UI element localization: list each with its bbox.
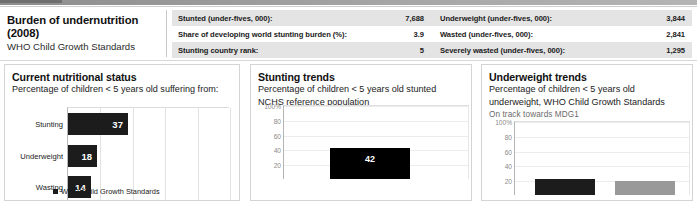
stat-label-share-burden: Share of developing world stunting burde… <box>172 30 364 39</box>
chart-legend: WHO Child Growth Standards <box>53 187 160 196</box>
chart-y-axis-tick: 40 <box>505 163 512 170</box>
underweight-trends-chart: 100%80604020 <box>488 121 693 201</box>
stat-value-wasted: 2,841 <box>640 30 692 39</box>
undernutrition-dashboard: Burden of undernutrition (2008) WHO Chil… <box>0 0 697 201</box>
legend-swatch-icon <box>53 189 58 194</box>
stat-label-underweight: Underweight (under-fives, 000): <box>432 14 640 23</box>
panels-row: Current nutritional status Percentage of… <box>0 64 697 201</box>
chart-bar-value: 18 <box>82 150 93 161</box>
chart-bar-value: 42 <box>330 154 410 164</box>
stat-label-wasted: Wasted (under-fives, 000): <box>432 30 640 39</box>
legend-label: WHO Child Growth Standards <box>61 187 160 196</box>
stat-value-severely-wasted: 1,295 <box>640 46 692 55</box>
chart-gridline <box>515 166 689 167</box>
panel-title: Underweight trends <box>489 71 692 83</box>
chart-gridline <box>515 152 689 153</box>
chart-y-axis-tick: 100% <box>264 103 281 110</box>
panel-title: Stunting trends <box>258 71 471 83</box>
chart-gridline <box>284 136 468 137</box>
stat-value-stunted: 7,688 <box>364 14 432 23</box>
chart-y-axis-tick: 20 <box>274 162 281 169</box>
chart-bar-row: 37Stunting <box>68 113 230 135</box>
panel-stunting-trends: Stunting trends Percentage of children <… <box>250 64 472 201</box>
panel-subtitle-line1: Percentage of children < 5 years old stu… <box>258 84 471 96</box>
chart-category-label: Stunting <box>35 119 63 128</box>
panel-subtitle-line2: underweight, WHO Child Growth Standards <box>489 97 692 109</box>
top-gradient-strip <box>0 0 697 5</box>
panel-underweight-trends: Underweight trends Percentage of childre… <box>481 64 693 201</box>
page-title: Burden of undernutrition (2008) <box>7 14 166 40</box>
stat-value-share-burden: 3.9 <box>364 30 432 39</box>
stat-label-country-rank: Stunting country rank: <box>172 46 364 55</box>
chart-gridline <box>230 108 231 201</box>
chart-y-axis-tick: 20 <box>505 178 512 185</box>
chart-gridline <box>515 122 689 123</box>
page-subtitle: WHO Child Growth Standards <box>7 41 166 53</box>
panel-subtitle: Percentage of children < 5 years old suf… <box>12 84 239 96</box>
chart-gridline <box>284 106 468 107</box>
top-strip-accent <box>0 0 62 3</box>
chart-plot-area: 100%80604020 <box>514 121 690 195</box>
chart-bar-row: 18Underweight <box>68 145 230 167</box>
stat-value-underweight: 3,844 <box>640 14 692 23</box>
chart-bar <box>535 179 595 195</box>
mdg-status-note: On track towards MDG1 <box>489 110 692 119</box>
chart-y-axis-tick: 100% <box>495 119 512 126</box>
chart-plot-area: 100%8060402042 <box>283 105 469 179</box>
header-band: Burden of undernutrition (2008) WHO Chil… <box>0 6 697 61</box>
chart-y-axis-tick: 60 <box>274 132 281 139</box>
stat-label-severely-wasted: Severely wasted (under-fives, 000): <box>432 46 640 55</box>
chart-bar: 37 <box>68 113 128 135</box>
chart-category-label: Underweight <box>20 151 63 160</box>
table-row: Stunting country rank: 5 Severely wasted… <box>172 42 692 58</box>
chart-bar-value: 37 <box>112 118 123 129</box>
burden-stats-table: Stunted (under-fives, 000): 7,688 Underw… <box>172 10 692 60</box>
chart-gridline <box>515 137 689 138</box>
stat-value-country-rank: 5 <box>364 46 432 55</box>
table-row: Share of developing world stunting burde… <box>172 26 692 42</box>
panel-current-nutritional-status: Current nutritional status Percentage of… <box>4 64 240 201</box>
panel-subtitle-line1: Percentage of children < 5 years old <box>489 84 692 96</box>
table-row: Stunted (under-fives, 000): 7,688 Underw… <box>172 10 692 26</box>
chart-y-axis-tick: 80 <box>505 133 512 140</box>
chart-y-axis-tick: 60 <box>505 148 512 155</box>
chart-bar <box>615 181 675 195</box>
stat-label-stunted: Stunted (under-fives, 000): <box>172 14 364 23</box>
chart-bar: 42 <box>330 148 410 179</box>
chart-y-axis-tick: 40 <box>274 147 281 154</box>
chart-y-axis-tick: 80 <box>274 117 281 124</box>
stunting-trends-chart: 100%8060402042 <box>257 105 472 195</box>
panel-title: Current nutritional status <box>12 71 239 83</box>
chart-gridline <box>284 121 468 122</box>
chart-bar: 18 <box>68 145 97 167</box>
header-title-box: Burden of undernutrition (2008) WHO Chil… <box>5 10 167 57</box>
